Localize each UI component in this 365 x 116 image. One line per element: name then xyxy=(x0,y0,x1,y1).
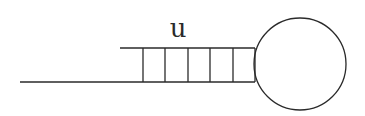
hairpin-diagram: u xyxy=(0,0,365,116)
base-pair-rungs xyxy=(143,48,255,82)
strand-label: u xyxy=(170,13,187,43)
hairpin-loop xyxy=(254,18,346,110)
